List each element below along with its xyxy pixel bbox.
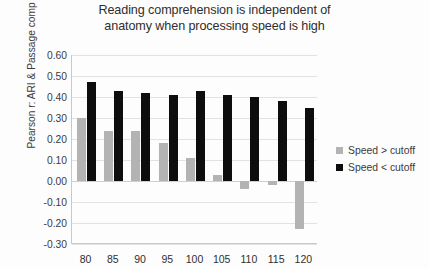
legend-item[interactable]: Speed < cutoff — [336, 159, 415, 176]
y-tick-label: 0.20 — [47, 134, 67, 145]
chart-container: Reading comprehension is independent of … — [0, 0, 429, 269]
plot-area: 0.600.500.400.300.200.100.00-0.10-0.20-0… — [71, 55, 317, 244]
bar-group: 95 — [154, 55, 181, 244]
bar[interactable] — [131, 131, 140, 181]
x-tick-label: 90 — [126, 253, 153, 265]
bar-group: 80 — [72, 55, 99, 244]
bar-group: 85 — [99, 55, 126, 244]
bar[interactable] — [223, 95, 232, 181]
bar-group: 110 — [235, 55, 262, 244]
legend-swatch-icon — [336, 147, 343, 154]
y-tick-label: 0.50 — [47, 71, 67, 82]
bar[interactable] — [104, 131, 113, 181]
y-tick-label: 0.30 — [47, 113, 67, 124]
legend-label: Speed < cutoff — [348, 162, 415, 173]
bar[interactable] — [268, 181, 277, 185]
legend-item[interactable]: Speed > cutoff — [336, 142, 415, 159]
bar[interactable] — [169, 95, 178, 181]
bar-group: 115 — [263, 55, 290, 244]
x-tick-label: 105 — [208, 253, 235, 265]
bar[interactable] — [114, 91, 123, 181]
x-tick-label: 120 — [290, 253, 317, 265]
bar-group: 120 — [290, 55, 317, 244]
bar[interactable] — [213, 175, 222, 181]
y-axis-title: Pearson r: ARI & Passage comp — [26, 0, 37, 161]
x-tick-label: 115 — [263, 253, 290, 265]
y-tick-label: 0.60 — [47, 50, 67, 61]
bar[interactable] — [159, 143, 168, 181]
y-tick-label: -0.20 — [44, 218, 67, 229]
y-tick-label: -0.10 — [44, 197, 67, 208]
x-axis-line — [72, 243, 317, 244]
x-tick-label: 85 — [99, 253, 126, 265]
bar[interactable] — [196, 91, 205, 181]
legend: Speed > cutoffSpeed < cutoff — [336, 142, 415, 176]
legend-label: Speed > cutoff — [348, 145, 415, 156]
y-tick-label: 0.40 — [47, 92, 67, 103]
bar[interactable] — [141, 93, 150, 181]
y-tick-label: -0.30 — [44, 239, 67, 250]
bar[interactable] — [295, 181, 304, 229]
bar[interactable] — [186, 158, 195, 181]
bar[interactable] — [250, 97, 259, 181]
bar[interactable] — [240, 181, 249, 189]
y-tick-label: 0.10 — [47, 155, 67, 166]
x-tick-label: 100 — [181, 253, 208, 265]
bar-groups: 80859095100105110115120 — [72, 55, 317, 244]
x-tick-label: 110 — [235, 253, 262, 265]
bar[interactable] — [305, 108, 314, 182]
chart-title: Reading comprehension is independent of … — [40, 3, 389, 34]
y-tick-label: 0.00 — [47, 176, 67, 187]
bar-group: 105 — [208, 55, 235, 244]
bar[interactable] — [87, 82, 96, 181]
bar[interactable] — [77, 118, 86, 181]
legend-swatch-icon — [336, 164, 343, 171]
bar-group: 90 — [126, 55, 153, 244]
x-tick-label: 95 — [154, 253, 181, 265]
bar[interactable] — [278, 101, 287, 181]
bar-group: 100 — [181, 55, 208, 244]
gridline: -0.30 — [72, 244, 317, 245]
x-tick-label: 80 — [72, 253, 99, 265]
